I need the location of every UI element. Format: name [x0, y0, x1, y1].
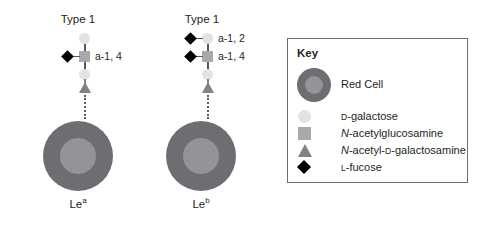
linkage-label-a-1-2-lewis-b: a-1, 2 — [218, 32, 245, 44]
key-label-n-acetylglucosamine: N-acetylglucosamine — [341, 127, 443, 140]
key-marker-d-galactose — [298, 110, 311, 123]
n-acetylglucosamine-glyph-lewis-b — [202, 51, 213, 62]
red-cell-inner-lewis-b — [183, 138, 219, 174]
key-label-red-cell-text: Red Cell — [341, 78, 383, 90]
key-label-l-fucose: l-fucose — [341, 161, 382, 175]
type-label-lewis-b: Type 1 — [172, 13, 232, 26]
antigen-label-lewis-b: Leb — [171, 198, 231, 211]
key-label-d-galactose-text: -galactose — [347, 110, 398, 122]
key-label-n-acetyl-d-galactosamine-prefix: N — [341, 144, 349, 156]
key-title: Key — [297, 47, 318, 60]
key-label-n-acetyl-d-galactosamine-text: -galactosamine — [391, 144, 466, 156]
membrane-dotted-line-lewis-b — [207, 95, 209, 119]
n-acetyl-d-galactosamine-glyph-lewis-b — [202, 82, 214, 93]
d-galactose-glyph-top-lewis-b — [202, 33, 213, 44]
key-label-n-acetylglucosamine-prefix: N — [341, 127, 349, 139]
key-marker-red-cell-inner — [305, 76, 323, 94]
l-fucose-glyph-lower-lewis-b — [184, 50, 197, 63]
antigen-label-lewis-b-superscript: b — [205, 196, 209, 205]
key-marker-n-acetylglucosamine — [298, 127, 311, 140]
key-label-l-fucose-text: -fucose — [346, 161, 382, 173]
key-label-n-acetyl-d-galactosamine-mid: -acetyl- — [349, 144, 385, 156]
key-label-d-galactose: d-galactose — [341, 110, 398, 124]
key-marker-n-acetyl-d-galactosamine — [298, 144, 312, 157]
key-label-red-cell: Red Cell — [341, 78, 383, 91]
l-fucose-glyph-upper-lewis-b — [184, 32, 197, 45]
key-label-n-acetylglucosamine-text: -acetylglucosamine — [349, 127, 443, 139]
linkage-label-a-1-4-lewis-b: a-1, 4 — [218, 50, 245, 62]
key-label-n-acetyl-d-galactosamine: N-acetyl-d-galactosamine — [341, 144, 466, 158]
panel-lewis-b: Type 1 a-1, 2 a-1, 4 Leb — [0, 0, 280, 238]
antigen-label-lewis-b-text: Le — [192, 198, 205, 210]
figure-canvas: Type 1 a-1, 4 Lea Type 1 — [0, 0, 490, 238]
